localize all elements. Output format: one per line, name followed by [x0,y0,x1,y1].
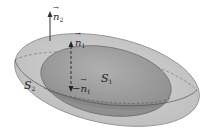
surface-symbol: S [101,72,109,85]
label-s1: S1 [101,73,112,85]
surface-subscript: 2 [32,85,36,92]
label-s2: S2 [24,80,35,92]
vector-symbol: n [80,84,86,94]
surface-diagram: n2 n1 −n1 S1 S2 [0,0,213,133]
label-n1: n1 [75,38,85,49]
minus-sign: − [72,83,80,94]
label-n2: n2 [53,12,63,23]
vector-symbol: n [75,38,81,48]
vector-subscript: 1 [81,42,85,49]
diagram-canvas [0,0,213,133]
surface-symbol: S [24,79,32,92]
surface-subscript: 1 [109,78,113,85]
vector-subscript: 1 [87,88,91,95]
vector-subscript: 2 [59,16,63,23]
vector-symbol: n [53,12,59,22]
label-neg-n1: −n1 [72,84,91,95]
